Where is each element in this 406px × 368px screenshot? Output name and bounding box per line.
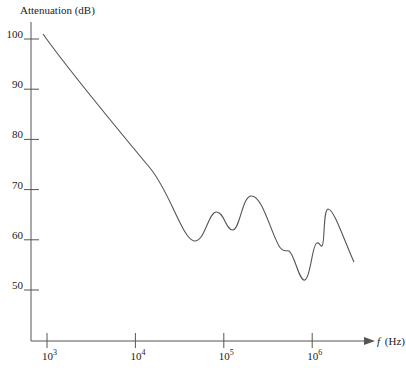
y-tick-label: 100 [7, 28, 24, 40]
y-tick-label: 90 [12, 78, 24, 90]
attenuation-curve [43, 34, 354, 280]
x-tick-label: 103 [42, 348, 57, 362]
y-tick-label: 60 [12, 229, 24, 241]
x-tick-label: 106 [307, 348, 322, 362]
x-axis-label-unit: (Hz) [385, 335, 405, 348]
attenuation-chart: Attenuation (dB) f (Hz) 1009080706050 10… [0, 0, 406, 368]
y-tick-label: 80 [12, 128, 24, 140]
x-ticks: 103104105106 [42, 333, 322, 362]
x-tick-label: 105 [219, 348, 234, 362]
x-tick-label: 104 [130, 348, 145, 362]
y-ticks: 1009080706050 [7, 28, 40, 291]
y-tick-label: 50 [12, 279, 24, 291]
x-axis-arrow-icon [364, 337, 375, 345]
y-tick-label: 70 [12, 179, 24, 191]
y-axis-label: Attenuation (dB) [20, 4, 95, 17]
x-axis-label-f: f [377, 335, 382, 347]
x-axis-label: f (Hz) [377, 335, 405, 348]
